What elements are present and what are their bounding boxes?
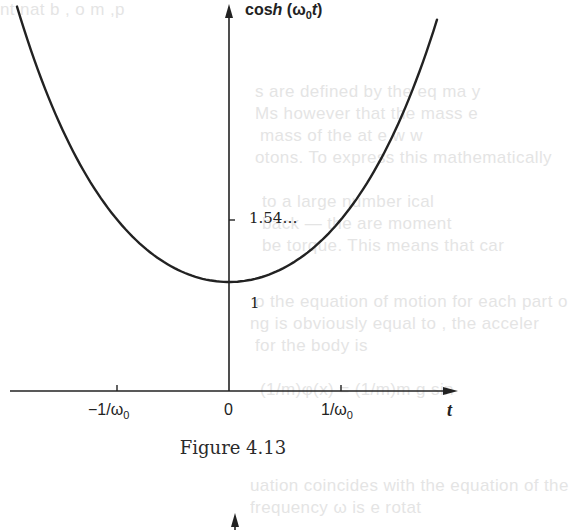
x-axis-label: t [447,400,452,421]
x-tick-label-pos1: 1/ω0 [321,401,353,421]
y-axis-arrow-icon [225,4,233,18]
y-axis-label: cosh (ω0t) [245,1,322,21]
x-tick-label-neg1: −1/ω0 [88,401,129,421]
next-figure-arrow-icon [231,513,239,527]
x-tick-label-0: 0 [224,401,233,419]
y-tick-label-154: 1.54… [249,209,297,227]
figure-caption: Figure 4.13 [0,437,466,458]
y-tick-label-1: 1 [250,294,260,312]
x-axis-arrow-icon [443,387,458,395]
cosh-curve [17,7,437,282]
